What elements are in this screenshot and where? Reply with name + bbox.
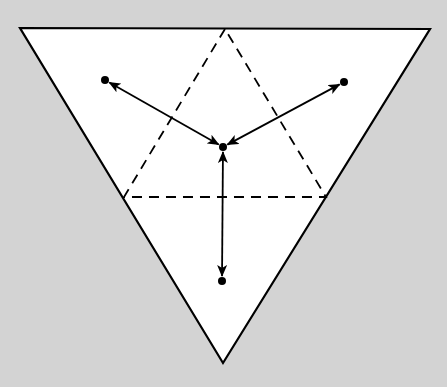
point-bottom [218,277,226,285]
triangle-diagram [0,0,447,387]
outer-triangle [20,28,430,363]
point-center [219,143,227,151]
double-arrow-bottom [222,152,223,276]
diagram-canvas [0,0,447,387]
point-upper-left [101,76,109,84]
point-upper-right [340,78,348,86]
